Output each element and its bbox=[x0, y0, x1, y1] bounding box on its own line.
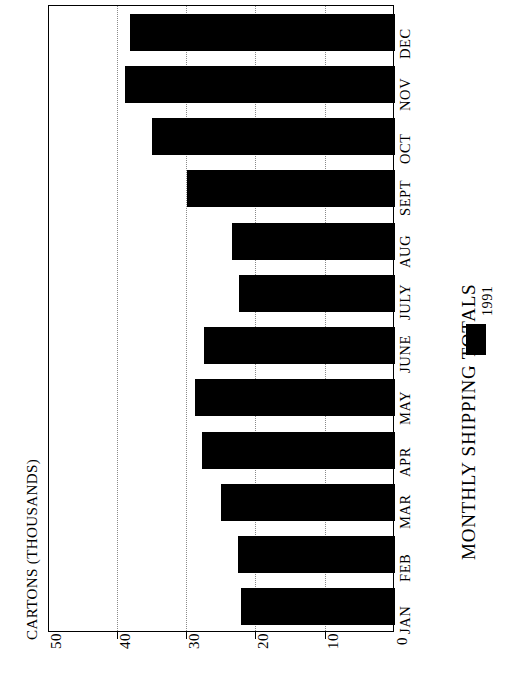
bar-feb bbox=[238, 536, 395, 573]
bar-may bbox=[195, 379, 395, 416]
category-label-dec: DEC bbox=[397, 0, 414, 59]
bar-jan bbox=[241, 588, 395, 625]
category-label-apr: APR bbox=[397, 417, 414, 477]
value-axis-title: CARTONS (THOUSANDS) bbox=[24, 459, 41, 640]
category-label-feb: FEB bbox=[397, 522, 414, 582]
legend: 1991 bbox=[462, 278, 502, 368]
bar-chart: 01020304050 JANFEBMARAPRMAYJUNEJULYAUGSE… bbox=[0, 0, 511, 692]
gridline-40 bbox=[117, 6, 118, 631]
bar-oct bbox=[152, 118, 395, 155]
legend-label-1991: 1991 bbox=[480, 286, 496, 316]
plot-area bbox=[48, 5, 395, 632]
tick-label-10: 10 bbox=[325, 621, 342, 661]
bar-sept bbox=[187, 170, 395, 207]
category-label-jan: JAN bbox=[397, 574, 414, 634]
tick-label-20: 20 bbox=[255, 621, 272, 661]
category-label-aug: AUG bbox=[397, 208, 414, 268]
category-label-may: MAY bbox=[397, 365, 414, 425]
bar-mar bbox=[221, 484, 395, 521]
category-label-june: JUNE bbox=[397, 313, 414, 373]
tick-label-30: 30 bbox=[186, 621, 203, 661]
category-label-mar: MAR bbox=[397, 469, 414, 529]
legend-swatch-1991 bbox=[466, 324, 486, 355]
bar-nov bbox=[125, 66, 395, 103]
tick-label-50: 50 bbox=[48, 621, 65, 661]
category-label-nov: NOV bbox=[397, 51, 414, 111]
category-label-sept: SEPT bbox=[397, 156, 414, 216]
bar-apr bbox=[202, 432, 395, 469]
bar-dec bbox=[130, 14, 395, 51]
category-label-july: JULY bbox=[397, 260, 414, 320]
bar-july bbox=[239, 275, 395, 312]
bar-aug bbox=[232, 223, 395, 260]
category-label-oct: OCT bbox=[397, 104, 414, 164]
tick-label-40: 40 bbox=[117, 621, 134, 661]
bar-june bbox=[204, 327, 395, 364]
